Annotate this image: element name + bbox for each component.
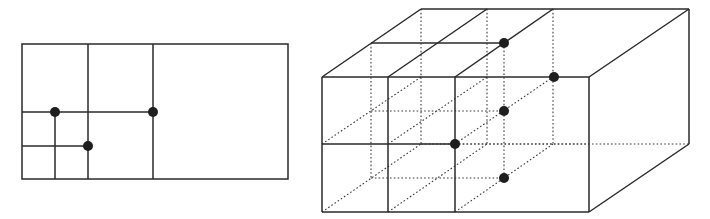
quadtree-division-lines bbox=[22, 44, 153, 179]
node-point bbox=[499, 38, 509, 48]
node-point bbox=[83, 141, 93, 151]
node-point bbox=[450, 139, 460, 149]
node-point bbox=[499, 173, 509, 183]
visible-edge bbox=[589, 144, 689, 212]
quadtree-2d-diagram bbox=[22, 44, 288, 179]
visible-edge bbox=[589, 9, 689, 77]
octree-3d-diagram bbox=[322, 9, 689, 212]
node-point bbox=[50, 107, 60, 117]
node-point bbox=[499, 106, 509, 116]
node-point bbox=[148, 107, 158, 117]
quadtree-node-points bbox=[50, 107, 158, 151]
node-point bbox=[549, 72, 559, 82]
subdivision-diagram bbox=[0, 0, 710, 219]
